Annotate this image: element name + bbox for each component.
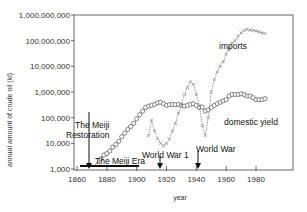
data-point [216,70,219,73]
plot-frame [74,15,293,170]
annotation-meiji-era: The Meiji Era [95,156,145,166]
data-point [222,60,225,63]
data-point [245,28,248,31]
y-axis-title: annual amount of crude oil (kl) [6,73,14,167]
x-axis-title: year [173,194,187,202]
data-point [263,32,266,35]
annotation-meiji-restoration-line1: The Meiji [75,120,110,130]
data-point [153,129,156,132]
y-tick-label: 100,000 [41,114,70,123]
data-point [162,144,165,147]
series-imports [147,28,267,148]
data-point [242,29,245,32]
x-axis: 1860188019001920194019601980 [68,166,265,184]
data-point [168,137,171,140]
y-tick-label: 10,000 [46,139,71,148]
annotation-world-war-1: World War 1 [142,150,189,160]
data-point [239,31,242,34]
data-point [138,113,142,117]
x-tick-label: 1960 [217,175,235,184]
x-tick-label: 1920 [158,175,176,184]
data-point [156,137,159,140]
data-point [207,116,210,119]
x-tick-label: 1900 [128,175,146,184]
data-point [123,131,127,135]
y-tick-label: 1,000,000 [34,88,70,97]
y-tick-label: 100,000,000 [26,37,71,46]
data-point [225,52,228,55]
y-tick-label: 1,000,000,000 [19,11,71,20]
data-point [177,112,180,115]
label-domestic-yield: domestic yield [224,117,278,127]
chart: 1,00010,000100,0001,000,00010,000,000100… [0,0,307,212]
data-point [135,117,139,121]
data-point [171,129,174,132]
data-point [183,93,186,96]
label-imports: imports [219,41,247,51]
y-axis: 1,00010,000100,0001,000,00010,000,000100… [19,11,74,174]
data-point [224,98,228,102]
data-point [189,80,192,83]
data-point [237,35,240,38]
data-point [159,142,162,145]
x-tick-label: 1880 [98,175,116,184]
x-tick-label: 1980 [247,175,265,184]
data-point [186,86,189,89]
data-point [263,97,267,101]
x-tick-label: 1860 [68,175,86,184]
annotation-world-war-2: World War [196,144,236,154]
data-point [141,109,145,113]
x-tick-label: 1940 [187,175,205,184]
annotation-meiji-restoration-line2: Restoration [66,130,110,140]
data-point [120,135,124,139]
data-point [117,139,121,143]
data-point [108,149,112,153]
data-point [219,65,222,68]
data-point [165,142,168,145]
y-tick-label: 1,000 [50,165,71,174]
data-point [132,121,136,125]
y-tick-label: 10,000,000 [30,62,71,71]
